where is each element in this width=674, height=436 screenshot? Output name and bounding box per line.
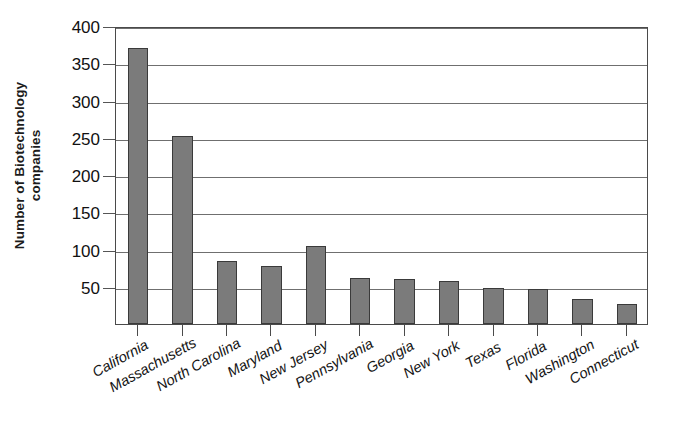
y-axis-tick-label: 300 <box>72 93 100 110</box>
y-axis-title-text: Number of Biotechnology companies <box>13 81 46 248</box>
x-axis-tick-mark <box>448 325 449 336</box>
x-axis-tick-label: Texas <box>463 339 503 370</box>
bar <box>172 136 192 324</box>
x-axis-tick-mark <box>581 325 582 336</box>
bar <box>261 266 281 324</box>
y-axis-tick-label: 50 <box>81 279 100 296</box>
x-axis-tick-labels: CaliforniaMassachusettsNorth CarolinaMar… <box>0 336 674 436</box>
x-axis-tick-mark <box>537 325 538 336</box>
bar <box>439 281 459 324</box>
plot-area <box>115 27 648 325</box>
x-axis-tick-mark <box>226 325 227 336</box>
y-axis-tick-label: 200 <box>72 168 100 185</box>
x-axis-tick-mark <box>493 325 494 336</box>
bar <box>350 278 370 324</box>
bar <box>617 304 637 324</box>
x-axis-tick-mark <box>359 325 360 336</box>
y-axis-title-line-2: companies <box>29 81 45 248</box>
bar <box>306 246 326 324</box>
y-axis-tick-label: 250 <box>72 130 100 147</box>
bar <box>572 299 592 324</box>
x-axis-tick-mark <box>182 325 183 336</box>
y-axis-tick-label: 100 <box>72 242 100 259</box>
bar <box>394 279 414 324</box>
x-axis-tick-mark <box>137 325 138 336</box>
y-axis-tick-label: 400 <box>72 19 100 36</box>
bar-series <box>116 28 647 324</box>
y-axis-title-line-1: Number of Biotechnology <box>13 81 29 248</box>
bar <box>128 48 148 324</box>
x-axis-tick-mark <box>626 325 627 336</box>
y-axis-tick-label: 150 <box>72 205 100 222</box>
x-axis-tick-mark <box>270 325 271 336</box>
y-axis-tick-label: 350 <box>72 56 100 73</box>
bar <box>217 261 237 324</box>
x-axis-tick-mark <box>315 325 316 336</box>
y-axis-title: Number of Biotechnology companies <box>0 0 58 330</box>
chart-page: Number of Biotechnology companies 501001… <box>0 0 674 436</box>
bar <box>528 289 548 324</box>
bar <box>483 288 503 325</box>
x-axis-tick-mark <box>404 325 405 336</box>
